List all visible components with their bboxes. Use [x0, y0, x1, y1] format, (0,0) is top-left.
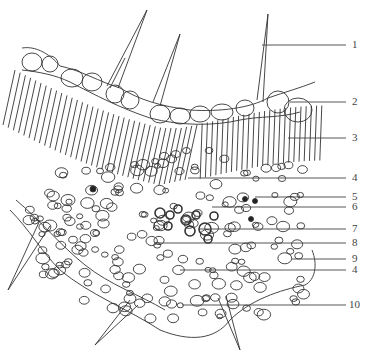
label-3: 3 [352, 132, 358, 143]
leaf-cross-section-diagram: 123456789410 [0, 0, 370, 355]
label-8: 8 [352, 237, 358, 248]
label-2: 2 [352, 96, 358, 107]
label-4: 4 [352, 172, 358, 183]
label-1: 1 [352, 39, 358, 50]
label-4: 4 [352, 264, 358, 275]
label-6: 6 [352, 201, 358, 212]
leaf-illustration [0, 0, 370, 355]
label-10: 10 [349, 299, 360, 310]
label-7: 7 [352, 223, 358, 234]
